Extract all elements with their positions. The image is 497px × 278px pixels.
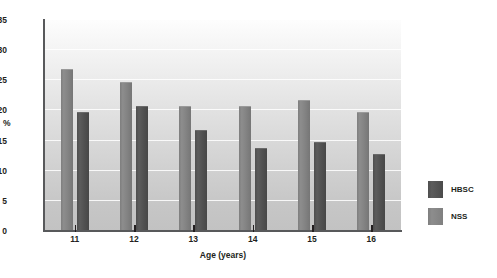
x-axis-tick-labels: 111213141516 bbox=[45, 234, 401, 248]
legend-swatch-nss bbox=[428, 208, 443, 225]
bar-nss-age-13 bbox=[179, 106, 191, 231]
y-tick-label: 0 bbox=[2, 226, 7, 236]
x-tick-mark bbox=[371, 225, 373, 232]
legend-item-nss: NSS bbox=[428, 207, 497, 225]
bar-hbsc-age-12 bbox=[136, 106, 148, 231]
bar-hbsc-age-16 bbox=[373, 154, 385, 231]
legend-swatch-hbsc bbox=[428, 181, 443, 198]
y-tick-label: 15 bbox=[0, 136, 7, 146]
bar-chart-figure: 05101520253035 % 111213141516 Age (years… bbox=[0, 0, 497, 278]
legend-label-nss: NSS bbox=[451, 212, 467, 221]
clipped-title-remnant bbox=[0, 0, 497, 3]
x-axis-tick-marks bbox=[45, 225, 401, 233]
x-tick-label-11: 11 bbox=[70, 234, 79, 244]
x-tick-label-14: 14 bbox=[248, 234, 257, 244]
y-tick-label: 25 bbox=[0, 75, 7, 85]
x-tick-label-13: 13 bbox=[189, 234, 198, 244]
y-tick-label: 5 bbox=[2, 196, 7, 206]
bar-nss-age-11 bbox=[61, 69, 73, 231]
legend-label-hbsc: HBSC bbox=[451, 185, 474, 194]
y-tick-label: 10 bbox=[0, 166, 7, 176]
bar-hbsc-age-15 bbox=[314, 142, 326, 231]
x-tick-mark bbox=[312, 225, 314, 232]
x-tick-mark bbox=[193, 225, 195, 232]
bar-hbsc-age-13 bbox=[195, 130, 207, 231]
bar-nss-age-16 bbox=[357, 112, 369, 231]
bar-hbsc-age-11 bbox=[77, 112, 89, 231]
y-tick-label: 30 bbox=[0, 45, 7, 55]
bars-container bbox=[45, 20, 401, 231]
bar-nss-age-15 bbox=[298, 100, 310, 231]
x-tick-label-15: 15 bbox=[307, 234, 316, 244]
x-tick-label-16: 16 bbox=[367, 234, 376, 244]
bar-nss-age-12 bbox=[120, 82, 132, 232]
y-axis-tick-labels: 05101520253035 bbox=[0, 0, 45, 278]
y-tick-label: 20 bbox=[0, 105, 7, 115]
x-tick-mark bbox=[75, 225, 77, 232]
legend: HBSCNSS bbox=[428, 180, 497, 234]
x-tick-mark bbox=[253, 225, 255, 232]
x-tick-mark bbox=[134, 225, 136, 232]
legend-item-hbsc: HBSC bbox=[428, 180, 497, 198]
plot-area bbox=[45, 20, 401, 231]
bar-hbsc-age-14 bbox=[255, 148, 267, 231]
x-tick-label-12: 12 bbox=[129, 234, 138, 244]
y-tick-label: 35 bbox=[0, 15, 7, 25]
x-axis-title: Age (years) bbox=[45, 250, 401, 260]
y-axis-title: % bbox=[3, 118, 11, 128]
bar-nss-age-14 bbox=[239, 106, 251, 231]
